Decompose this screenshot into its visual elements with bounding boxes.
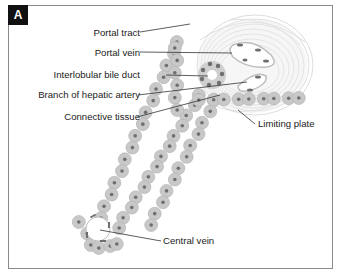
- label-portal-vein: Portal vein: [95, 48, 140, 58]
- label-branch-hepatic-artery: Branch of hepatic artery: [38, 90, 140, 100]
- label-limiting-plate: Limiting plate: [258, 119, 315, 129]
- liver-lobule-illustration: [0, 0, 339, 275]
- label-central-vein: Central vein: [163, 236, 214, 246]
- label-interlobular-bile-duct: Interlobular bile duct: [54, 70, 140, 80]
- label-portal-tract: Portal tract: [94, 28, 140, 38]
- label-connective-tissue: Connective tissue: [64, 112, 140, 122]
